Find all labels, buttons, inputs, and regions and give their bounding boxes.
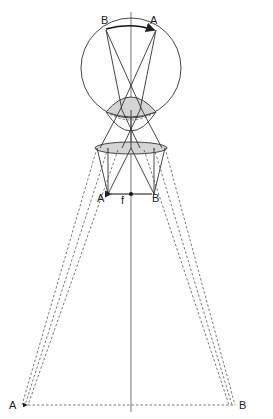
retina-image-arrow <box>106 26 154 30</box>
optics-diagram: B A A f B A B <box>0 0 273 419</box>
focal-point <box>129 192 133 196</box>
label-retina-b: B <box>101 14 108 26</box>
virtual-rays <box>22 148 235 405</box>
label-virtual-a: A <box>9 399 17 411</box>
label-focal-f: f <box>121 194 125 206</box>
label-object-a: A <box>97 192 105 204</box>
label-object-b: B <box>152 192 159 204</box>
label-retina-a: A <box>150 14 158 26</box>
label-virtual-b: B <box>239 399 246 411</box>
